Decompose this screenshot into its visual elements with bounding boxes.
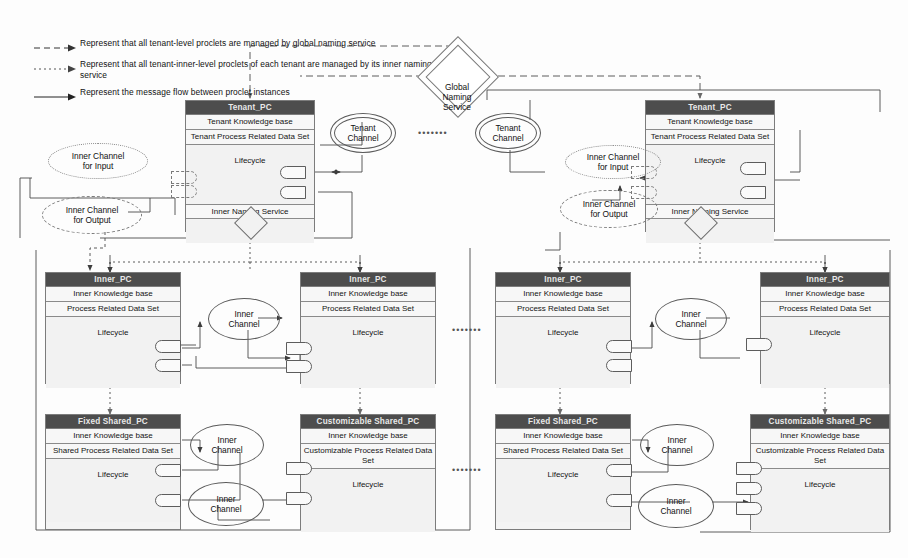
label-line1: Inner — [681, 309, 700, 319]
legend-item-label: Represent the message flow between procl… — [80, 87, 290, 98]
inner-channel-6[interactable]: Inner Channel — [638, 484, 714, 528]
label-line2: for Output — [590, 209, 627, 219]
inner-knowledge-base: Inner Knowledge base — [46, 429, 180, 444]
inner-channel-3[interactable]: Inner Channel — [190, 424, 264, 466]
label-line2: Channel — [228, 319, 259, 329]
fixed-shared-pc-2-port-a[interactable] — [606, 464, 632, 477]
label-line1: Inner — [667, 435, 686, 445]
customizable-shared-pc-2-port-b[interactable] — [736, 482, 762, 495]
tenant-knowledge-base: Tenant Knowledge base — [646, 115, 774, 130]
label-line1: Inner Channel — [66, 205, 119, 215]
inner-pc-3-port-b[interactable] — [606, 359, 632, 372]
inner-channel-for-input-left[interactable]: Inner Channel for Input — [48, 143, 148, 179]
process-related-data-set: Process Related Data Set — [761, 302, 889, 317]
inner-pc-4-port-a[interactable] — [746, 338, 772, 351]
label-line1: Inner Channel — [583, 199, 636, 209]
inner-channel-2[interactable]: Inner Channel — [655, 298, 727, 340]
inner-channel-for-output-left[interactable]: Inner Channel for Output — [42, 196, 142, 234]
fixed-shared-pc-1-port-a[interactable] — [155, 464, 181, 477]
customizable-shared-pc-2[interactable]: Customizable Shared_PC Inner Knowledge b… — [750, 414, 890, 530]
process-related-data-set: Process Related Data Set — [301, 302, 435, 317]
label-line2: Channel — [675, 319, 706, 329]
label-line1: Inner — [234, 309, 253, 319]
customizable-process-related-data-set: Customizable Process Related Data Set — [751, 444, 889, 469]
inner-pc-1-port-b[interactable] — [155, 359, 181, 372]
tenant-left-port-right-in[interactable] — [280, 166, 306, 179]
inner-channel-5[interactable]: Inner Channel — [640, 424, 714, 466]
tenant-process-related-data-set: Tenant Process Related Data Set — [186, 130, 314, 145]
inner-knowledge-base: Inner Knowledge base — [496, 429, 630, 444]
shared-pc-row-ellipsis: ••••••• — [452, 465, 482, 475]
label-line1: Inner — [666, 496, 685, 506]
shared-lifecycle: Lifecycle — [301, 469, 435, 532]
legend-item: Represent that all tenant-level proclets… — [34, 38, 454, 52]
label-line1: Inner Channel — [587, 152, 640, 162]
inner-knowledge-base: Inner Knowledge base — [751, 429, 889, 444]
tenant-left-port-out[interactable] — [171, 185, 197, 198]
gns-line1: Global — [424, 82, 490, 92]
global-naming-service[interactable]: Global Naming Service — [424, 38, 490, 114]
legend-dashed-arrow-icon — [34, 40, 80, 52]
tenant-left-port-right-out[interactable] — [280, 186, 306, 199]
shared-pc-header: Customizable Shared_PC — [751, 415, 889, 429]
customizable-shared-pc-1-port-a[interactable] — [286, 462, 312, 475]
legend: Represent that all tenant-level proclets… — [34, 38, 454, 108]
diagram-canvas: Represent that all tenant-level proclets… — [0, 0, 908, 558]
inner-knowledge-base: Inner Knowledge base — [301, 429, 435, 444]
inner-channel-4[interactable]: Inner Channel — [188, 482, 264, 526]
tenant-knowledge-base: Tenant Knowledge base — [186, 115, 314, 130]
customizable-shared-pc-1[interactable]: Customizable Shared_PC Inner Knowledge b… — [300, 414, 436, 530]
tenant-ellipsis: ••••••• — [418, 128, 448, 138]
inner-pc-2-port-b[interactable] — [286, 360, 312, 373]
label-line2: for Input — [598, 162, 629, 172]
label-line1: Inner Channel — [72, 151, 125, 161]
tenant-process-related-data-set: Tenant Process Related Data Set — [646, 130, 774, 145]
tenant-channel-2[interactable]: Tenant Channel — [475, 113, 541, 153]
label-line2: for Input — [83, 161, 114, 171]
legend-dotted-arrow-icon — [34, 61, 80, 73]
inner-pc-2[interactable]: Inner_PC Inner Knowledge base Process Re… — [300, 272, 436, 384]
label-line2: Channel — [347, 133, 378, 143]
label-line2: Channel — [211, 445, 242, 455]
shared-pc-header: Fixed Shared_PC — [46, 415, 180, 429]
inner-pc-4[interactable]: Inner_PC Inner Knowledge base Process Re… — [760, 272, 890, 384]
inner-pc-2-port-a[interactable] — [286, 342, 312, 355]
inner-lifecycle: Lifecycle — [301, 317, 435, 388]
inner-pc-header: Inner_PC — [301, 273, 435, 287]
tenant-right-port-right-out[interactable] — [740, 186, 766, 199]
inner-channel-for-output-right[interactable]: Inner Channel for Output — [560, 190, 658, 228]
inner-knowledge-base: Inner Knowledge base — [761, 287, 889, 302]
tenant-left-port-in[interactable] — [171, 171, 197, 184]
inner-pc-header: Inner_PC — [761, 273, 889, 287]
legend-item: Represent the message flow between procl… — [34, 87, 454, 101]
tenant-right-port-right-in[interactable] — [740, 162, 766, 175]
gns-line3: Service — [424, 102, 490, 112]
customizable-shared-pc-1-port-b[interactable] — [286, 492, 312, 505]
shared-lifecycle: Lifecycle — [751, 469, 889, 532]
label-line2: Channel — [492, 133, 523, 143]
inner-pc-header: Inner_PC — [496, 273, 630, 287]
inner-channel-for-input-right[interactable]: Inner Channel for Input — [565, 145, 661, 179]
shared-pc-header: Customizable Shared_PC — [301, 415, 435, 429]
tenant-pc-header: Tenant_PC — [646, 101, 774, 115]
customizable-shared-pc-2-port-a[interactable] — [736, 462, 762, 475]
inner-pc-1-port-a[interactable] — [155, 340, 181, 353]
inner-channel-1[interactable]: Inner Channel — [208, 298, 280, 340]
fixed-shared-pc-2-port-b[interactable] — [606, 494, 632, 507]
label-line1: Tenant — [495, 123, 520, 133]
label-line2: Channel — [660, 506, 691, 516]
label-line1: Inner — [217, 435, 236, 445]
inner-pc-3-port-a[interactable] — [606, 340, 632, 353]
legend-solid-arrow-icon — [34, 89, 80, 101]
fixed-shared-pc-1-port-b[interactable] — [155, 494, 181, 507]
label-line2: Channel — [661, 445, 692, 455]
customizable-shared-pc-2-port-c[interactable] — [736, 502, 762, 515]
inner-lifecycle: Lifecycle — [761, 317, 889, 388]
gns-line2: Naming — [424, 92, 490, 102]
tenant-channel-1[interactable]: Tenant Channel — [330, 113, 396, 153]
tenant-pc-header: Tenant_PC — [186, 101, 314, 115]
shared-process-related-data-set: Shared Process Related Data Set — [496, 444, 630, 459]
shared-pc-header: Fixed Shared_PC — [496, 415, 630, 429]
process-related-data-set: Process Related Data Set — [496, 302, 630, 317]
label-line1: Inner — [216, 494, 235, 504]
